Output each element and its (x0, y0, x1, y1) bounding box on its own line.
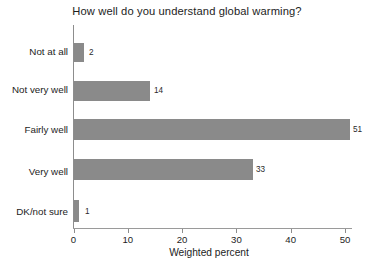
x-axis-tick-40 (291, 229, 292, 233)
x-axis-tick-30 (236, 229, 237, 233)
x-axis-tick-label-50: 50 (330, 234, 360, 246)
x-axis-tick-label-20: 20 (167, 234, 197, 246)
bar-chart: How well do you understand global warmin… (0, 0, 374, 275)
x-axis-tick-0 (74, 229, 75, 233)
x-axis-tick-10 (128, 229, 129, 233)
bar-dk-not-sure[interactable] (74, 200, 80, 222)
x-axis-tick-label-10: 10 (113, 234, 143, 246)
x-axis-tick-50 (345, 229, 346, 233)
y-axis-tick-label-dk-not-sure: DK/not sure (16, 206, 68, 218)
y-axis-tick-label-fairly-well: Fairly well (24, 124, 68, 136)
y-axis-tick-label-not-at-all: Not at all (29, 46, 68, 58)
bar-very-well[interactable] (74, 159, 253, 180)
bar-not-at-all[interactable] (74, 43, 85, 62)
x-axis-title: Weighted percent (73, 246, 345, 259)
x-axis-line (73, 228, 352, 229)
bar-value-not-very-well: 14 (154, 86, 163, 96)
chart-title: How well do you understand global warmin… (0, 4, 374, 18)
bar-value-dk-not-sure: 1 (85, 207, 90, 217)
x-axis-tick-label-0: 0 (59, 234, 89, 246)
bar-value-fairly-well: 51 (353, 125, 362, 135)
bar-fairly-well[interactable] (74, 119, 351, 140)
y-axis-tick-label-very-well: Very well (29, 166, 68, 178)
bar-not-very-well[interactable] (74, 81, 150, 101)
bar-value-very-well: 33 (256, 165, 265, 175)
bar-value-not-at-all: 2 (89, 48, 94, 58)
x-axis-tick-label-30: 30 (221, 234, 251, 246)
x-axis-tick-20 (182, 229, 183, 233)
x-axis-tick-label-40: 40 (276, 234, 306, 246)
y-axis-tick-label-not-very-well: Not very well (12, 84, 68, 96)
